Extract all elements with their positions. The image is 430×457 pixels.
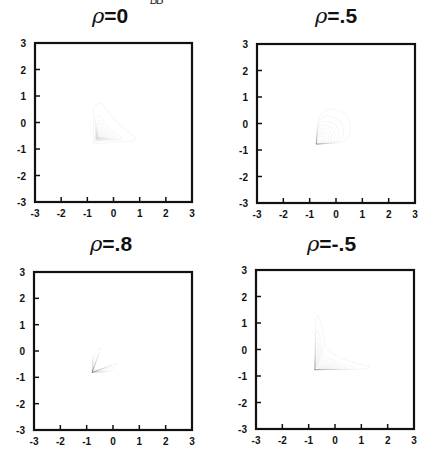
contour-line [92, 365, 99, 372]
plot-frame [34, 272, 192, 430]
x-tick-label: 1 [360, 209, 366, 220]
contour-line [315, 360, 325, 370]
plot-frame [257, 44, 415, 203]
contour-line [316, 134, 326, 145]
y-tick-label: 0 [241, 345, 247, 356]
contour-line [92, 371, 94, 373]
contour-line [97, 129, 107, 139]
x-tick-label: 1 [137, 208, 143, 219]
y-tick-label: 3 [19, 267, 25, 278]
x-tick-label: 0 [333, 209, 339, 220]
y-tick-label: 0 [20, 118, 26, 129]
contour-line [316, 121, 338, 144]
x-tick-label: -2 [279, 209, 288, 220]
x-tick-label: 0 [332, 435, 338, 446]
x-tick-label: -3 [253, 209, 262, 220]
y-tick-label: 1 [241, 318, 247, 329]
x-tick-label: 3 [412, 209, 418, 220]
plot-frame [256, 270, 414, 429]
y-tick-label: 1 [242, 92, 248, 103]
x-tick-label: -1 [305, 209, 314, 220]
panel-2: -33-22-11001-12-23-3 [16, 267, 195, 447]
contour-line [315, 315, 370, 370]
x-tick-label: 2 [163, 208, 169, 219]
contour-line [97, 133, 102, 138]
contour-line [316, 138, 322, 144]
y-tick-label: 3 [241, 265, 247, 276]
contour-lines [92, 348, 117, 373]
contour-line [316, 142, 318, 144]
x-tick-label: 1 [359, 435, 365, 446]
x-tick-label: -2 [56, 436, 65, 447]
y-tick-label: 2 [20, 65, 26, 76]
x-tick-label: -1 [304, 435, 313, 446]
contour-line [92, 348, 117, 373]
y-tick-label: -2 [17, 171, 26, 182]
x-tick-label: 3 [411, 435, 417, 446]
contour-line [315, 347, 338, 370]
y-tick-label: 1 [20, 91, 26, 102]
x-tick-label: -1 [83, 208, 92, 219]
y-tick-label: -1 [238, 371, 247, 382]
x-tick-label: 2 [386, 209, 392, 220]
x-tick-label: -3 [31, 208, 40, 219]
x-tick-label: 0 [111, 208, 117, 219]
y-tick-label: -3 [239, 198, 248, 209]
contour-line [315, 362, 323, 370]
contour-line [315, 330, 355, 370]
contour-line [98, 135, 100, 137]
contour-line [316, 136, 324, 145]
contour-line [96, 123, 114, 140]
contour-line [316, 139, 320, 144]
contour-line [316, 109, 350, 144]
contour-line [92, 370, 95, 373]
x-tick-label: -3 [252, 435, 261, 446]
contour-line [316, 125, 335, 144]
contour-line [92, 369, 96, 373]
y-tick-label: -3 [238, 424, 247, 435]
x-tick-label: -2 [278, 435, 287, 446]
x-tick-label: 2 [385, 435, 391, 446]
x-tick-label: -1 [82, 436, 91, 447]
y-tick-label: 1 [19, 320, 25, 331]
y-tick-label: 2 [19, 293, 25, 304]
contour-line [316, 128, 331, 144]
contour-lines [315, 315, 370, 370]
contour-line [315, 338, 347, 370]
y-tick-label: -3 [16, 425, 25, 436]
x-tick-label: -3 [30, 436, 39, 447]
contour-line [92, 357, 108, 373]
y-tick-label: -1 [239, 145, 248, 156]
contour-line [93, 103, 135, 143]
y-tick-label: 3 [242, 39, 248, 50]
contour-line [315, 357, 327, 370]
x-tick-label: 0 [110, 436, 116, 447]
panel-0: -33-22-11001-12-23-3 [17, 38, 195, 219]
x-tick-label: 3 [189, 208, 195, 219]
x-tick-label: 3 [189, 436, 195, 447]
y-tick-label: -2 [16, 399, 25, 410]
y-tick-label: 3 [20, 38, 26, 49]
y-tick-label: -1 [16, 372, 25, 383]
contour-line [92, 367, 97, 372]
plot-frame [35, 43, 192, 202]
contour-line [316, 131, 329, 144]
y-tick-label: -2 [239, 172, 248, 183]
contour-line [92, 353, 111, 372]
contour-line [315, 351, 334, 370]
contour-plot-rho-0: -33-22-11001-12-23-3-33-22-11001-12-23-3… [0, 0, 430, 457]
contour-line [316, 116, 343, 144]
contour-line [315, 354, 331, 370]
x-tick-label: -2 [57, 208, 66, 219]
contour-line [315, 343, 342, 370]
y-tick-label: 2 [241, 292, 247, 303]
x-tick-label: 1 [137, 436, 143, 447]
x-tick-label: 2 [163, 436, 169, 447]
y-tick-label: -3 [17, 197, 26, 208]
contour-line [316, 141, 319, 144]
y-tick-label: 0 [19, 346, 25, 357]
contour-line [96, 120, 118, 141]
contour-line [92, 359, 105, 372]
contour-lines [93, 103, 135, 143]
panel-1: -33-22-11001-12-23-3 [239, 39, 418, 220]
